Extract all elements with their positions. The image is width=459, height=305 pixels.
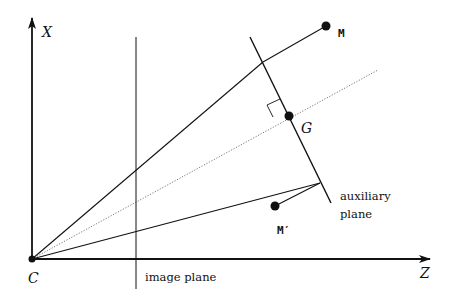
dotted-ray-through-g [32, 70, 378, 259]
segment-aux-to-m-prime [275, 183, 320, 206]
z-axis-label: Z [419, 265, 430, 281]
auxiliary-plane-label-line2: plane [340, 207, 372, 221]
point-g-label: G [301, 120, 312, 136]
x-axis-label: X [41, 24, 53, 40]
point-m-prime-label: M′ [277, 224, 290, 237]
ray-c-to-aux [32, 183, 320, 259]
image-plane-label: image plane [145, 270, 217, 284]
auxiliary-plane-label-line1: auxiliary [340, 189, 391, 203]
point-m-prime [271, 202, 280, 211]
ray-c-to-m [32, 62, 263, 259]
point-m-label: M [338, 27, 345, 40]
origin-label: C [28, 270, 39, 286]
point-g [285, 112, 294, 121]
point-m [322, 22, 331, 31]
segment-aux-to-m [263, 26, 326, 62]
camera-projection-diagram: X Z C M G M′ image plane auxiliary plane [0, 0, 459, 305]
origin-point-c [29, 256, 36, 263]
right-angle-marker [267, 99, 280, 117]
